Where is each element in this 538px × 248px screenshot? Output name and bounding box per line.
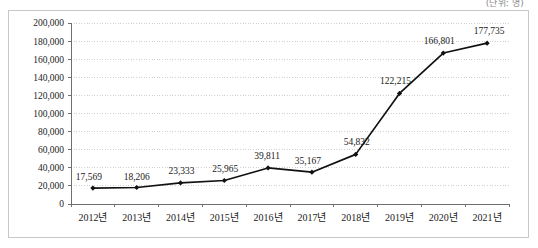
y-tick-labels: 020,00040,00060,00080,000100,000120,0001… [33,18,64,209]
y-tick-label: 200,000 [33,18,64,28]
x-tick-label: 2021년 [473,212,502,223]
y-tick-label: 80,000 [38,127,64,137]
data-point-label: 177,735 [474,26,505,36]
data-point-label: 54,832 [344,137,370,147]
x-axis [71,204,509,207]
x-tick-label: 2015년 [210,212,239,223]
x-tick-label: 2019년 [385,212,414,223]
x-tick-label: 2020년 [429,212,458,223]
data-point-label: 25,965 [212,164,238,174]
data-point-label: 39,811 [254,151,280,161]
line-chart: 020,00040,00060,00080,000100,000120,0001… [9,11,530,239]
unit-caption: (단위: 명) [486,0,524,9]
y-tick-label: 40,000 [38,163,64,173]
y-tick-label: 120,000 [33,91,64,101]
series-path [93,43,487,188]
y-tick-label: 160,000 [33,55,64,65]
chart-plot-area: 020,00040,00060,00080,000100,000120,0001… [9,11,528,237]
y-tick-label: 20,000 [38,181,64,191]
series-line [93,43,487,188]
y-tick-label: 60,000 [38,145,64,155]
x-tick-labels: 2012년2013년2014년2015년2016년2017년2018년2019년… [78,212,501,223]
x-tick-label: 2014년 [166,212,195,223]
chart-frame: 020,00040,00060,00080,000100,000120,0001… [8,10,529,238]
y-tick-label: 140,000 [33,73,64,83]
y-tick-label: 180,000 [33,37,64,47]
x-tick-label: 2018년 [341,212,370,223]
x-tick-label: 2013년 [122,212,151,223]
data-marker [178,180,183,185]
data-point-label: 166,801 [424,36,455,46]
x-tick-label: 2016년 [254,212,283,223]
data-marker [134,185,139,190]
data-point-label: 122,215 [380,76,411,86]
x-tick-label: 2012년 [78,212,107,223]
data-point-label: 35,167 [295,156,321,166]
data-point-label: 23,333 [168,166,194,176]
data-point-labels: 17,56918,20623,33325,96539,81135,16754,8… [76,26,505,182]
data-marker [222,178,227,183]
data-point-label: 18,206 [124,172,150,182]
x-tick-label: 2017년 [297,212,326,223]
y-tick-label: 100,000 [33,109,64,119]
data-marker [266,165,271,170]
y-tick-label: 0 [59,199,64,209]
data-point-label: 17,569 [76,172,102,182]
data-marker [309,170,314,175]
y-axis [68,23,71,204]
